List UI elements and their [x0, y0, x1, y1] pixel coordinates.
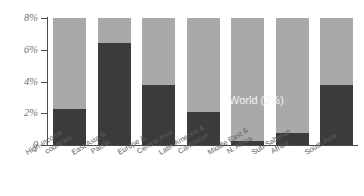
y-tick-label-8: 8%	[24, 13, 38, 24]
bar-group-1[interactable]	[98, 18, 131, 145]
bar-group-4[interactable]	[231, 18, 264, 145]
bar-group-6[interactable]	[320, 18, 353, 145]
y-tick-label-2: 2%	[24, 108, 38, 119]
y-tick-label-4: 4%	[24, 77, 38, 88]
stacked-bar-chart: 8% 6% 4% 2% 0	[0, 0, 364, 196]
bar-light-segment-5	[276, 18, 309, 145]
bar-group-0[interactable]	[53, 18, 86, 145]
world-average-annotation: World (2%)	[229, 95, 284, 106]
bar-group-5[interactable]	[276, 18, 309, 145]
y-tick-label-6: 6%	[24, 45, 38, 56]
bar-light-segment-4	[231, 18, 264, 145]
